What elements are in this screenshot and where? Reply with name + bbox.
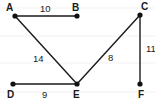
nodes-group bbox=[10, 12, 142, 86]
node-label-c: C bbox=[141, 1, 148, 12]
node-label-d: D bbox=[7, 89, 14, 100]
edge-c-e bbox=[77, 15, 140, 84]
node-label-a: A bbox=[6, 2, 13, 13]
weighted-graph-diagram: 10148119 ABCDEF bbox=[0, 0, 155, 100]
edge-weight-c-f: 11 bbox=[146, 43, 155, 54]
node-e bbox=[74, 81, 79, 86]
edge-labels-group: 10148119 bbox=[33, 3, 155, 100]
edge-weight-a-e: 14 bbox=[33, 53, 44, 64]
edge-a-e bbox=[15, 16, 77, 84]
node-c bbox=[137, 12, 142, 17]
edge-weight-d-e: 9 bbox=[42, 89, 47, 100]
node-label-b: B bbox=[72, 2, 79, 13]
node-f bbox=[137, 81, 142, 86]
edge-weight-a-b: 10 bbox=[40, 3, 51, 14]
node-b bbox=[74, 13, 79, 18]
node-label-f: F bbox=[138, 89, 144, 100]
ruled-background bbox=[0, 8, 155, 92]
edges-group bbox=[13, 15, 140, 84]
node-label-e: E bbox=[73, 89, 80, 100]
node-d bbox=[10, 81, 15, 86]
node-a bbox=[12, 13, 17, 18]
edge-weight-c-e: 8 bbox=[108, 52, 113, 63]
